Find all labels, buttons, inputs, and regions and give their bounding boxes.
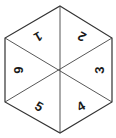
segment-label-6: 6 xyxy=(11,66,26,73)
segment-label-3: 3 xyxy=(92,66,107,73)
hexagon-spinner: 1 2 3 4 5 6 xyxy=(0,0,116,138)
